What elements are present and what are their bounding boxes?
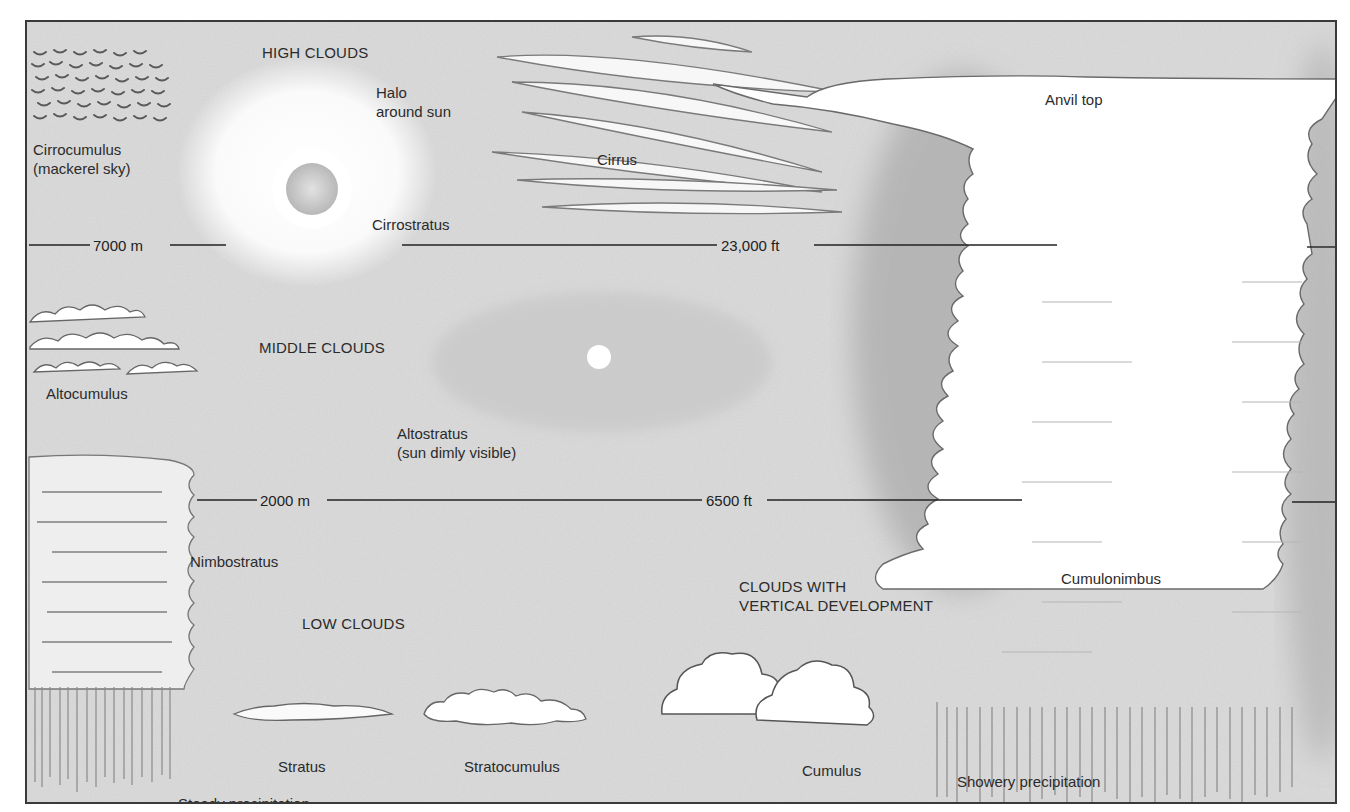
low-clouds-label: LOW CLOUDS	[302, 614, 405, 633]
cumulonimbus-label: Cumulonimbus	[1061, 569, 1161, 588]
sun-icon	[286, 163, 338, 215]
altitude-23000ft-label: 23,000 ft	[720, 238, 780, 254]
vertical-development-label-line2: VERTICAL DEVELOPMENT	[739, 596, 933, 615]
altostratus-label: Altostratus	[397, 424, 468, 443]
middle-clouds-label: MIDDLE CLOUDS	[259, 338, 385, 357]
stratocumulus-label: Stratocumulus	[464, 757, 560, 776]
altitude-7000m-label: 7000 m	[92, 238, 144, 254]
cloud-illustration	[27, 22, 1337, 804]
altocumulus-label: Altocumulus	[46, 384, 128, 403]
high-clouds-label: HIGH CLOUDS	[262, 43, 368, 62]
altostratus-note: (sun dimly visible)	[397, 443, 516, 462]
cirrocumulus-label: Cirrocumulus	[33, 140, 121, 159]
showery-precipitation-label: Showery precipitation	[957, 772, 1100, 791]
halo-label-line1: Halo	[376, 83, 407, 102]
cloud-diagram-frame: HIGH CLOUDS MIDDLE CLOUDS LOW CLOUDS CLO…	[25, 20, 1337, 804]
vertical-development-label-line1: CLOUDS WITH	[739, 577, 846, 596]
cumulus-label: Cumulus	[802, 761, 861, 780]
cirrus-label: Cirrus	[597, 150, 637, 169]
steady-precipitation-label: Steady precipitation	[178, 794, 310, 804]
dim-sun-icon	[587, 345, 611, 369]
cirrocumulus-note: (mackerel sky)	[33, 159, 131, 178]
cirrostratus-label: Cirrostratus	[372, 215, 450, 234]
halo-label-line2: around sun	[376, 102, 451, 121]
anvil-top-label: Anvil top	[1045, 90, 1103, 109]
stratus-label: Stratus	[278, 757, 326, 776]
altostratus-cloud	[432, 292, 772, 432]
nimbostratus-label: Nimbostratus	[190, 552, 278, 571]
altitude-2000m-label: 2000 m	[259, 493, 311, 509]
altitude-6500ft-label: 6500 ft	[705, 493, 753, 509]
